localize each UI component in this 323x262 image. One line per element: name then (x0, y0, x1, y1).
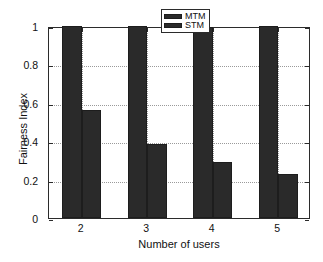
bar-mtm-4 (193, 27, 213, 218)
x-axis-tick-labels: 2345 (48, 222, 310, 238)
x-axis-tick (147, 28, 148, 32)
y-axis-tick (305, 220, 309, 221)
legend-label: STM (185, 21, 204, 30)
y-axis-title: Fairness Index (17, 59, 29, 199)
y-axis-tick (49, 182, 53, 183)
y-axis-tick (305, 28, 309, 29)
y-axis-tick (49, 143, 53, 144)
chart-legend: MTMSTM (161, 9, 210, 33)
x-axis-tick-label: 2 (78, 222, 84, 234)
bar-mtm-5 (259, 26, 279, 218)
bar-stm-4 (213, 162, 233, 218)
x-axis-tick (213, 28, 214, 32)
figure-canvas: 00.20.40.60.81 Fairness Index 2345 Numbe… (0, 0, 323, 262)
x-axis-title: Number of users (48, 238, 310, 250)
bar-stm-2 (82, 110, 102, 218)
x-axis-tick-label: 3 (143, 222, 149, 234)
bar-stm-5 (278, 174, 298, 218)
y-axis-tick (305, 105, 309, 106)
plot-area (48, 27, 310, 219)
y-axis-tick (305, 143, 309, 144)
bar-mtm-3 (128, 26, 148, 218)
y-axis-tick-label: 0 (0, 213, 38, 225)
y-axis-tick (49, 66, 53, 67)
legend-swatch-icon (164, 14, 182, 19)
legend-swatch-icon (164, 23, 182, 28)
y-axis-tick (49, 28, 53, 29)
legend-item-stm[interactable]: STM (164, 21, 206, 30)
y-axis-tick (49, 105, 53, 106)
x-axis-tick (278, 28, 279, 32)
bar-mtm-2 (62, 26, 82, 218)
x-axis-tick-label: 5 (274, 222, 280, 234)
x-axis-tick (82, 28, 83, 32)
y-axis-tick (305, 66, 309, 67)
bar-stm-3 (147, 144, 167, 218)
y-axis-tick (49, 220, 53, 221)
y-axis-tick-label: 1 (0, 21, 38, 33)
y-axis-tick (305, 182, 309, 183)
x-axis-tick-label: 4 (209, 222, 215, 234)
